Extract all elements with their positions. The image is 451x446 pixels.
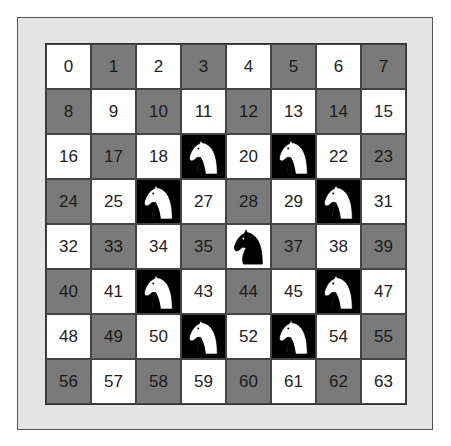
square-number: 22 xyxy=(329,147,348,167)
board-square: 41 xyxy=(91,269,136,314)
square-number: 34 xyxy=(149,237,168,257)
square-white-knight xyxy=(316,179,361,224)
chessboard: 0123456789101112131415161718202223242527… xyxy=(45,43,407,405)
board-square: 54 xyxy=(316,314,361,359)
board-square: 4 xyxy=(226,44,271,89)
board-square: 15 xyxy=(361,89,406,134)
square-number: 6 xyxy=(334,57,343,77)
square-number: 55 xyxy=(374,327,393,347)
square-number: 16 xyxy=(59,147,78,167)
board-square: 31 xyxy=(361,179,406,224)
square-number: 0 xyxy=(64,57,73,77)
square-number: 58 xyxy=(149,372,168,392)
board-square: 52 xyxy=(226,314,271,359)
square-number: 44 xyxy=(239,282,258,302)
square-number: 57 xyxy=(104,372,123,392)
square-number: 20 xyxy=(239,147,258,167)
board-square: 60 xyxy=(226,359,271,404)
board-square: 27 xyxy=(181,179,226,224)
board-square: 35 xyxy=(181,224,226,269)
board-square: 61 xyxy=(271,359,316,404)
square-number: 63 xyxy=(374,372,393,392)
board-square: 14 xyxy=(316,89,361,134)
square-number: 7 xyxy=(379,57,388,77)
square-white-knight xyxy=(181,134,226,179)
board-square: 56 xyxy=(46,359,91,404)
board-square: 57 xyxy=(91,359,136,404)
board-square: 49 xyxy=(91,314,136,359)
board-square: 32 xyxy=(46,224,91,269)
square-number: 39 xyxy=(374,237,393,257)
board-square: 63 xyxy=(361,359,406,404)
board-square: 8 xyxy=(46,89,91,134)
square-number: 56 xyxy=(59,372,78,392)
square-number: 8 xyxy=(64,102,73,122)
square-number: 9 xyxy=(109,102,118,122)
white-knight-icon xyxy=(185,137,223,177)
square-number: 5 xyxy=(289,57,298,77)
black-knight-icon xyxy=(230,227,268,267)
white-knight-icon xyxy=(320,272,358,312)
square-white-knight xyxy=(271,134,316,179)
board-square: 34 xyxy=(136,224,181,269)
white-knight-icon xyxy=(140,272,178,312)
board-square: 12 xyxy=(226,89,271,134)
square-white-knight xyxy=(316,269,361,314)
board-square: 24 xyxy=(46,179,91,224)
square-number: 2 xyxy=(154,57,163,77)
square-number: 14 xyxy=(329,102,348,122)
square-number: 52 xyxy=(239,327,258,347)
board-square: 13 xyxy=(271,89,316,134)
white-knight-icon xyxy=(140,182,178,222)
square-white-knight xyxy=(271,314,316,359)
board-square: 18 xyxy=(136,134,181,179)
square-number: 50 xyxy=(149,327,168,347)
board-square: 22 xyxy=(316,134,361,179)
board-square: 10 xyxy=(136,89,181,134)
board-square: 48 xyxy=(46,314,91,359)
board-square: 20 xyxy=(226,134,271,179)
square-number: 40 xyxy=(59,282,78,302)
square-number: 45 xyxy=(284,282,303,302)
square-number: 11 xyxy=(195,102,213,122)
square-number: 38 xyxy=(329,237,348,257)
square-number: 25 xyxy=(104,192,123,212)
square-black-knight xyxy=(226,224,271,269)
square-number: 59 xyxy=(194,372,213,392)
square-white-knight xyxy=(181,314,226,359)
board-square: 2 xyxy=(136,44,181,89)
board-square: 37 xyxy=(271,224,316,269)
square-number: 62 xyxy=(329,372,348,392)
board-square: 25 xyxy=(91,179,136,224)
white-knight-icon xyxy=(275,137,313,177)
board-square: 9 xyxy=(91,89,136,134)
square-number: 4 xyxy=(244,57,253,77)
square-number: 60 xyxy=(239,372,258,392)
white-knight-icon xyxy=(185,317,223,357)
board-square: 40 xyxy=(46,269,91,314)
square-number: 37 xyxy=(284,237,303,257)
square-number: 23 xyxy=(374,147,393,167)
square-white-knight xyxy=(136,179,181,224)
square-number: 24 xyxy=(59,192,78,212)
board-square: 39 xyxy=(361,224,406,269)
square-number: 1 xyxy=(109,57,118,77)
board-square: 23 xyxy=(361,134,406,179)
board-square: 45 xyxy=(271,269,316,314)
square-number: 29 xyxy=(284,192,303,212)
square-number: 61 xyxy=(284,372,303,392)
square-number: 13 xyxy=(284,102,303,122)
board-square: 28 xyxy=(226,179,271,224)
board-square: 3 xyxy=(181,44,226,89)
square-white-knight xyxy=(136,269,181,314)
board-square: 0 xyxy=(46,44,91,89)
square-number: 31 xyxy=(374,192,393,212)
board-square: 1 xyxy=(91,44,136,89)
square-number: 15 xyxy=(374,102,393,122)
board-square: 62 xyxy=(316,359,361,404)
board-square: 58 xyxy=(136,359,181,404)
board-square: 38 xyxy=(316,224,361,269)
square-number: 27 xyxy=(194,192,213,212)
board-square: 7 xyxy=(361,44,406,89)
square-number: 3 xyxy=(199,57,208,77)
